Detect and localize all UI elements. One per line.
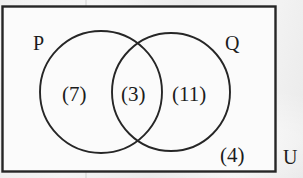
- universal-set-label: U: [283, 147, 297, 167]
- venn-diagram-canvas: [0, 0, 303, 178]
- venn-diagram-figure: P Q (7) (3) (11) (4) U: [0, 0, 303, 178]
- set-p-label: P: [33, 33, 44, 53]
- p-only-count: (7): [62, 84, 87, 105]
- q-only-count: (11): [172, 84, 206, 105]
- set-q-label: Q: [225, 33, 239, 53]
- outside-count: (4): [220, 145, 245, 166]
- intersection-count: (3): [121, 84, 146, 105]
